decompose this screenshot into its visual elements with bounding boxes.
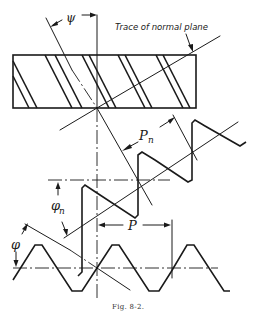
normal-tooth-profile [78, 120, 246, 276]
helix-line-lower [97, 108, 152, 205]
normal-pitch-dimension: P n [122, 115, 197, 160]
pn-label: P [138, 128, 148, 143]
pitch-dimension: P [98, 218, 171, 233]
normal-section-profile [48, 120, 246, 276]
transverse-section-profile [13, 220, 230, 291]
rack-top-view [13, 55, 196, 108]
pressure-angle-line-center [70, 250, 97, 268]
psi-dimension: ψ [50, 11, 97, 27]
phi-label: φ [11, 237, 21, 252]
phi-n-subscript: n [59, 206, 65, 216]
normal-plane-trace-lower [60, 108, 97, 130]
pn-subscript: n [148, 135, 154, 145]
figure-caption: Fig. 8-2. [112, 303, 144, 311]
psi-label: ψ [66, 11, 76, 25]
slanted-teeth [13, 55, 190, 108]
trace-note: Trace of normal plane [115, 22, 208, 32]
phi-n-dimension: φ n [51, 182, 68, 236]
trace-note-arrow [186, 34, 193, 52]
helical-rack-diagram: ψ Trace of normal plane P n φ n [0, 0, 254, 315]
normal-plane-trace [97, 36, 220, 108]
pressure-angle-line [25, 224, 70, 250]
pressure-angle-line-lower [97, 268, 130, 290]
p-label: P [127, 218, 137, 233]
